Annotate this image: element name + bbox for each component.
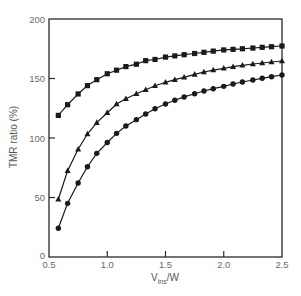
square-marker [65, 102, 70, 107]
circle-marker [85, 164, 90, 169]
circle-marker [163, 101, 168, 106]
square-marker [152, 57, 157, 62]
x-axis-label-tail: /W [167, 272, 180, 283]
square-marker [163, 54, 168, 59]
circle-marker [181, 94, 186, 99]
square-marker [134, 62, 139, 67]
square-marker [172, 53, 177, 58]
x-tick-label: 2.5 [275, 259, 288, 270]
square-marker [221, 47, 226, 52]
x-tick-label: 1.5 [159, 259, 172, 270]
circle-marker [250, 77, 255, 82]
square-marker [143, 58, 148, 63]
square-marker [211, 49, 216, 54]
circle-marker [211, 86, 216, 91]
circle-marker [134, 117, 139, 122]
triangle-marker [279, 58, 285, 64]
triangle-marker [65, 167, 71, 173]
series-circles [56, 72, 285, 231]
data-series [55, 43, 285, 231]
circle-marker [105, 140, 110, 145]
series-line [58, 75, 282, 228]
square-marker [94, 77, 99, 82]
square-marker [182, 52, 187, 57]
square-marker [85, 83, 90, 88]
square-marker [201, 50, 206, 55]
square-marker [123, 64, 128, 69]
square-marker [269, 44, 274, 49]
circle-marker [114, 131, 119, 136]
y-tick-label: 150 [29, 73, 45, 84]
y-axis-label: TMR ratio (%) [8, 106, 19, 168]
y-axis-ticks: 050100150200 [29, 14, 55, 262]
circle-marker [94, 151, 99, 156]
circle-marker [172, 98, 177, 103]
x-tick-label: 2.0 [217, 259, 230, 270]
square-marker [192, 51, 197, 56]
circle-marker [65, 201, 70, 206]
circle-marker [269, 74, 274, 79]
x-axis-ticks: 0.51.01.52.02.5 [42, 251, 288, 270]
square-marker [105, 71, 110, 76]
square-marker [250, 45, 255, 50]
circle-marker [201, 88, 206, 93]
x-axis-label: Vins/W [151, 272, 179, 285]
circle-marker [56, 226, 61, 231]
square-marker [279, 43, 284, 48]
circle-marker [221, 84, 226, 89]
series-line [58, 61, 282, 199]
square-marker [230, 47, 235, 52]
circle-marker [230, 81, 235, 86]
tmr-ratio-chart: 0.51.01.52.02.5 050100150200 TMR ratio (… [0, 0, 301, 296]
x-tick-label: 1.0 [101, 259, 114, 270]
square-marker [114, 68, 119, 73]
square-marker [56, 113, 61, 118]
square-marker [260, 45, 265, 50]
circle-marker [152, 106, 157, 111]
square-marker [76, 91, 81, 96]
y-tick-label: 100 [29, 133, 45, 144]
circle-marker [143, 111, 148, 116]
circle-marker [259, 76, 264, 81]
circle-marker [123, 123, 128, 128]
y-tick-label: 0 [40, 250, 45, 261]
circle-marker [192, 91, 197, 96]
y-tick-label: 200 [29, 14, 45, 25]
circle-marker [279, 72, 284, 77]
circle-marker [75, 180, 80, 185]
triangle-marker [55, 196, 61, 202]
y-tick-label: 50 [34, 192, 45, 203]
circle-marker [240, 79, 245, 84]
square-marker [240, 46, 245, 51]
